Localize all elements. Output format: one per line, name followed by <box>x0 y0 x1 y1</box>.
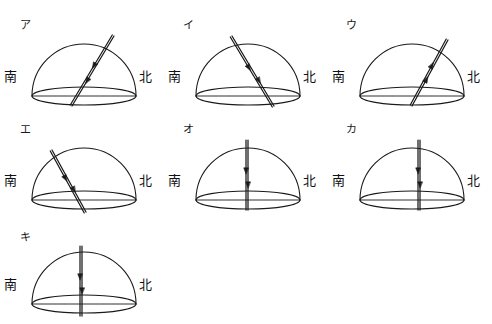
direction-label-south-u: 南 <box>332 70 345 83</box>
direction-label-north-e: 北 <box>139 174 152 187</box>
sun-path-line-primary <box>52 150 86 212</box>
celestial-dome-o <box>164 112 328 220</box>
sun-direction-arrowhead <box>86 77 91 83</box>
dome-arc <box>196 44 300 96</box>
direction-label-south-i: 南 <box>168 70 181 83</box>
sun-path-line-primary <box>72 36 114 106</box>
diagram-cell-u: 南北 <box>328 8 492 116</box>
dome-arc <box>32 44 136 96</box>
sun-direction-arrowhead <box>62 175 67 181</box>
dome-arc <box>32 148 136 200</box>
direction-label-north-ki: 北 <box>139 278 152 291</box>
celestial-dome-e <box>0 112 164 220</box>
figure-sheet: ア南北イ南北ウ南北エ南北オ南北カ南北キ南北 <box>0 0 492 324</box>
celestial-dome-u <box>328 8 492 116</box>
direction-label-north-o: 北 <box>303 174 316 187</box>
celestial-dome-a <box>0 8 164 116</box>
diagram-cell-ki: 南北 <box>0 216 164 324</box>
diagram-cell-ka: 南北 <box>328 112 492 220</box>
direction-label-south-ki: 南 <box>4 278 17 291</box>
sun-direction-arrowhead <box>245 64 250 70</box>
direction-label-south-o: 南 <box>168 174 181 187</box>
dome-arc <box>32 252 136 304</box>
celestial-dome-ka <box>328 112 492 220</box>
diagram-cell-i: 南北 <box>164 8 328 116</box>
celestial-dome-i <box>164 8 328 116</box>
sun-path-line-secondary <box>70 35 112 105</box>
sun-path-line-primary <box>232 36 274 106</box>
sun-direction-arrowhead <box>428 63 433 69</box>
direction-label-north-a: 北 <box>139 70 152 83</box>
diagram-cell-a: 南北 <box>0 8 164 116</box>
direction-label-south-a: 南 <box>4 70 17 83</box>
direction-label-south-ka: 南 <box>332 174 345 187</box>
direction-label-north-ka: 北 <box>467 174 480 187</box>
dome-arc <box>360 148 464 200</box>
direction-label-north-u: 北 <box>467 70 480 83</box>
celestial-dome-ki <box>0 216 164 324</box>
sun-path-line-secondary <box>50 151 84 213</box>
dome-arc <box>360 44 464 96</box>
diagram-cell-o: 南北 <box>164 112 328 220</box>
direction-label-south-e: 南 <box>4 174 17 187</box>
sun-path-line-secondary <box>410 39 446 105</box>
direction-label-north-i: 北 <box>303 70 316 83</box>
diagram-cell-e: 南北 <box>0 112 164 220</box>
